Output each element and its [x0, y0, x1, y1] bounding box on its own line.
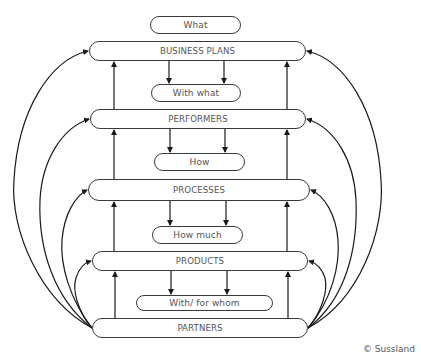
level-products: PRODUCTS — [92, 251, 308, 271]
question-with-for-whom: With/ for whom — [136, 295, 273, 311]
question-how: How — [154, 153, 245, 171]
curve-left-to-performers — [40, 119, 92, 328]
curve-left-to-processes — [62, 190, 92, 328]
question-with-what: With what — [151, 84, 241, 102]
copyright-label: © Sussland — [363, 344, 415, 354]
curve-left-to-business-plans — [14, 51, 92, 328]
level-business-plans: BUSINESS PLANS — [89, 41, 306, 61]
question-what: What — [150, 16, 241, 34]
level-performers: PERFORMERS — [90, 109, 306, 129]
question-how-much: How much — [152, 226, 243, 244]
curve-right-to-processes — [308, 190, 338, 328]
level-processes: PROCESSES — [88, 179, 310, 201]
curve-left-to-products — [75, 261, 92, 328]
partners-flow-diagram: What BUSINESS PLANS With what PERFORMERS… — [0, 0, 421, 364]
curve-right-to-business-plans — [307, 51, 381, 328]
curve-right-to-performers — [307, 119, 356, 328]
level-partners: PARTNERS — [92, 318, 308, 338]
